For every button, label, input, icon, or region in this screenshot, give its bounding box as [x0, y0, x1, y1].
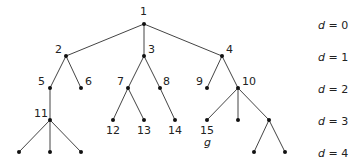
tree-node — [17, 150, 21, 154]
tree-node — [126, 86, 130, 90]
tree-node — [173, 118, 177, 122]
depth-label: d = 3 — [318, 116, 348, 128]
tree-edge — [254, 120, 269, 152]
tree-edge — [50, 120, 81, 152]
tree-edge — [207, 88, 238, 120]
depth-label: d = 0 — [318, 20, 348, 32]
tree-node — [142, 54, 146, 58]
node-label: 3 — [148, 44, 155, 56]
tree-edge — [238, 88, 269, 120]
tree-node — [142, 118, 146, 122]
node-label: 4 — [226, 44, 233, 56]
tree-node — [205, 86, 209, 90]
depth-label: d = 1 — [318, 52, 348, 64]
tree-node — [142, 22, 146, 26]
node-label: 13 — [137, 125, 151, 137]
tree-node — [111, 118, 115, 122]
tree-edge — [128, 56, 144, 88]
node-label: 10 — [242, 76, 256, 88]
tree-node — [205, 118, 209, 122]
tree-diagram — [0, 0, 359, 163]
node-label: 9 — [196, 76, 203, 88]
tree-node — [48, 150, 52, 154]
node-label: 1 — [140, 6, 147, 18]
tree-node — [79, 86, 83, 90]
tree-edge — [19, 120, 50, 152]
tree-node — [267, 118, 271, 122]
tree-node — [158, 86, 162, 90]
node-label: 6 — [85, 76, 92, 88]
tree-edge — [66, 56, 81, 88]
tree-edge — [50, 56, 66, 88]
tree-node — [236, 118, 240, 122]
node-label: 12 — [106, 125, 120, 137]
node-label: 8 — [163, 76, 170, 88]
tree-node — [220, 54, 224, 58]
tree-node — [283, 150, 287, 154]
tree-node — [236, 86, 240, 90]
tree-edge — [113, 88, 128, 120]
node-label: 14 — [168, 125, 182, 137]
tree-edge — [144, 56, 160, 88]
tree-edge — [66, 24, 144, 56]
node-label: 11 — [34, 108, 48, 120]
tree-edge — [160, 88, 175, 120]
tree-edge — [144, 24, 222, 56]
tree-node — [48, 86, 52, 90]
depth-label: d = 2 — [318, 84, 348, 96]
tree-node — [48, 118, 52, 122]
tree-edge — [128, 88, 144, 120]
tree-node — [79, 150, 83, 154]
tree-edge — [207, 56, 222, 88]
tree-node — [64, 54, 68, 58]
tree-edge — [222, 56, 238, 88]
goal-label: g — [204, 137, 211, 149]
node-label: 2 — [55, 44, 62, 56]
node-label: 7 — [117, 76, 124, 88]
tree-node — [252, 150, 256, 154]
tree-edge — [269, 120, 285, 152]
node-label: 5 — [38, 76, 45, 88]
depth-label: d = 4 — [318, 148, 348, 160]
